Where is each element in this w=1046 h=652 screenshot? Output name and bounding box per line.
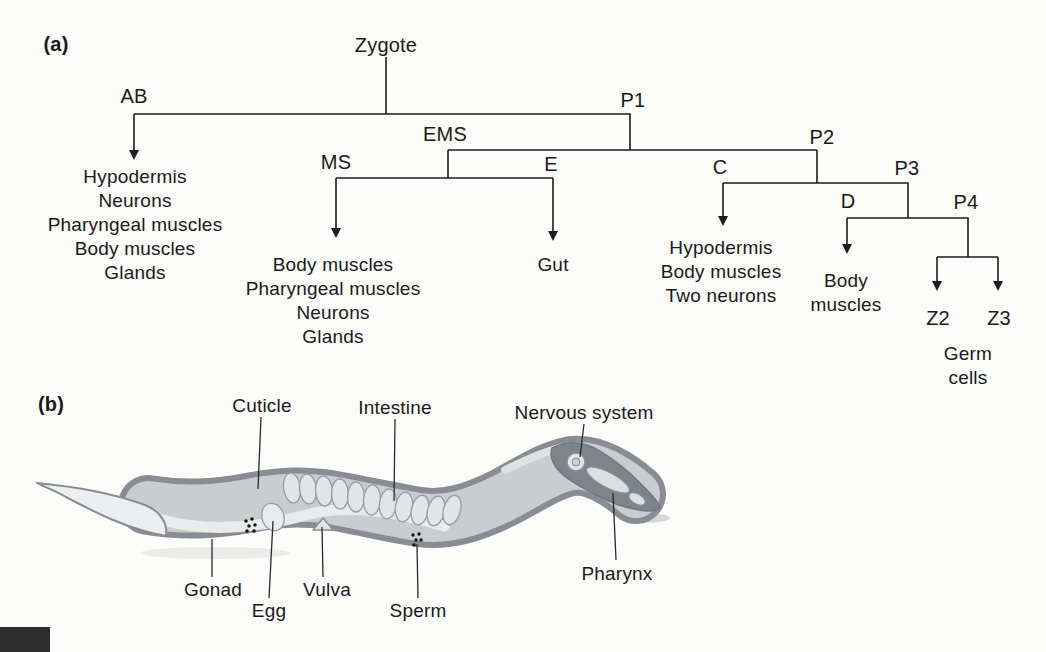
- lineage-connectors: [134, 57, 998, 257]
- node-label-p1: P1: [621, 90, 646, 110]
- panel-b-label: (b): [38, 394, 64, 414]
- node-label-ems: EMS: [423, 124, 467, 144]
- node-label-p3: P3: [895, 158, 920, 178]
- corner-black-box: [0, 627, 50, 652]
- anatomy-label-pharynx: Pharynx: [581, 564, 652, 583]
- anatomy-label-vulva: Vulva: [303, 580, 351, 599]
- fate-list-d: Body muscles: [810, 269, 881, 317]
- anatomy-label-egg: Egg: [252, 601, 286, 620]
- figure-canvas: (a) (b) Zygote AB P1 EMS P2 MS E C P3 D …: [0, 0, 1046, 652]
- node-label-z2: Z2: [926, 308, 950, 328]
- node-label-c: C: [713, 157, 728, 177]
- nerve-ring: [567, 453, 585, 471]
- fate-list-ms: Body muscles Pharyngeal muscles Neurons …: [246, 253, 421, 349]
- anatomy-label-sperm: Sperm: [390, 601, 447, 620]
- fate-list-ab: Hypodermis Neurons Pharyngeal muscles Bo…: [48, 165, 223, 285]
- node-label-z3: Z3: [987, 308, 1011, 328]
- node-label-ab: AB: [120, 86, 147, 106]
- node-label-p2: P2: [810, 127, 835, 147]
- anatomy-label-cuticle: Cuticle: [232, 396, 291, 415]
- panel-a-label: (a): [43, 34, 68, 54]
- worm-illustration: [37, 443, 670, 559]
- node-label-d: D: [841, 191, 856, 211]
- node-label-zygote: Zygote: [355, 35, 417, 55]
- node-label-ms: MS: [321, 152, 351, 172]
- node-label-p4: P4: [954, 192, 979, 212]
- anatomy-label-gonad: Gonad: [184, 580, 242, 599]
- fate-list-c: Hypodermis Body muscles Two neurons: [661, 236, 782, 308]
- worm-shadow: [140, 547, 290, 559]
- node-label-e: E: [544, 154, 558, 174]
- anatomy-label-nervous-system: Nervous system: [514, 403, 653, 422]
- fate-list-e: Gut: [537, 253, 568, 277]
- diagram-graphics: [0, 0, 1046, 652]
- fate-list-germ-cells: Germ cells: [944, 342, 992, 390]
- anatomy-label-intestine: Intestine: [358, 398, 432, 417]
